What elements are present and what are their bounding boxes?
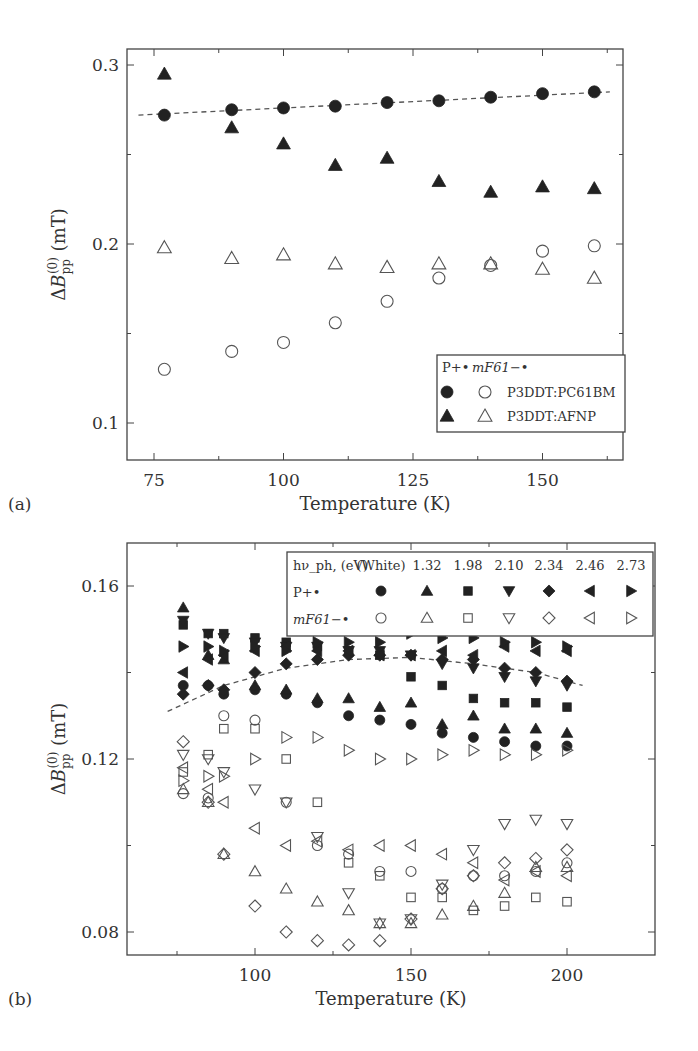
circle-marker: [437, 728, 447, 738]
circle-marker: [500, 737, 510, 747]
triangle-up-marker: [436, 719, 448, 729]
y-tick-label: 0.12: [81, 749, 119, 769]
square-marker: [344, 859, 353, 868]
triangle-up-marker: [249, 866, 261, 876]
triangle-up-marker: [280, 684, 292, 694]
triangle-up-marker: [587, 271, 601, 283]
circle-marker: [158, 363, 170, 375]
triangle-up-marker: [530, 723, 542, 733]
y-tick-label: 0.16: [81, 576, 119, 596]
series-2-34-p-: [177, 649, 573, 700]
triangle-left-marker: [218, 797, 228, 809]
triangle-up-marker: [157, 241, 171, 253]
x-axis-label: Temperature (K): [315, 988, 466, 1009]
circle-marker: [219, 711, 229, 721]
triangle-up-marker: [312, 693, 324, 703]
triangle-right-marker: [407, 753, 417, 765]
x-tick-label: 150: [395, 965, 427, 985]
triangle-down-marker: [218, 634, 230, 644]
square-marker: [532, 699, 541, 708]
square-marker: [563, 703, 572, 712]
series-p3ddt-afnp-p-: [157, 67, 601, 197]
circle-marker: [468, 871, 478, 881]
triangle-right-marker: [313, 732, 323, 744]
legend: P+•mF61−•P3DDT:PC61BMP3DDT:AFNP: [437, 355, 625, 432]
triangle-up-marker: [587, 182, 601, 194]
legend-header-mf: mF61−•: [472, 360, 528, 375]
triangle-left-marker: [177, 667, 187, 679]
legend-row-label-mf: mF61−•: [293, 612, 349, 627]
circle-marker: [158, 109, 170, 121]
triangle-up-marker: [374, 701, 386, 711]
legend-row-label-p: P+•: [293, 585, 320, 600]
circle-marker: [278, 102, 290, 114]
square-marker: [407, 673, 416, 682]
diamond-marker: [343, 939, 355, 951]
series-2-73-mf61-: [179, 732, 573, 787]
triangle-up-marker: [380, 151, 394, 163]
square-marker: [500, 902, 509, 911]
series-1-32-mf61-: [177, 784, 572, 928]
triangle-up-marker: [436, 909, 448, 919]
circle-marker: [433, 95, 445, 107]
triangle-right-marker: [179, 641, 189, 653]
triangle-up-marker: [380, 260, 394, 272]
y-axis-label: ΔBpp(0) (mT): [46, 208, 73, 300]
triangle-up-marker: [225, 251, 239, 263]
square-marker: [282, 755, 291, 764]
triangle-left-marker: [436, 848, 446, 860]
circle-marker: [250, 715, 260, 725]
diamond-marker: [177, 688, 189, 700]
diamond-marker: [467, 870, 479, 882]
triangle-down-marker: [343, 889, 355, 899]
series-p3ddt-afnp-mf61-: [157, 241, 601, 284]
triangle-up-marker: [405, 918, 417, 928]
triangle-up-marker: [249, 680, 261, 690]
x-axis-label: Temperature (K): [299, 493, 450, 514]
circle-marker: [329, 317, 341, 329]
triangle-up-marker: [536, 262, 550, 274]
triangle-left-marker: [405, 840, 415, 852]
x-tick-label: 200: [551, 965, 583, 985]
triangle-right-marker: [469, 745, 479, 757]
triangle-up-marker: [328, 158, 342, 170]
diamond-marker: [374, 935, 386, 947]
triangle-up-marker: [177, 602, 189, 612]
legend-header-p: P+•: [442, 360, 469, 375]
legend-column-label: (White): [357, 558, 406, 573]
square-marker: [313, 798, 322, 807]
y-tick-label: 0.2: [92, 234, 119, 254]
triangle-right-marker: [500, 749, 510, 761]
square-marker: [532, 893, 541, 902]
triangle-right-marker: [282, 732, 292, 744]
triangle-right-marker: [204, 771, 214, 783]
triangle-left-marker: [374, 840, 384, 852]
legend-entry-label: P3DDT:PC61BM: [507, 385, 616, 400]
triangle-right-marker: [344, 745, 354, 757]
square-marker: [464, 587, 473, 596]
fit-line-dashed: [168, 657, 583, 711]
triangle-left-marker: [468, 857, 478, 869]
y-tick-label: 0.08: [81, 922, 119, 942]
x-tick-label: 150: [526, 470, 558, 490]
circle-marker: [226, 104, 238, 116]
triangle-left-marker: [249, 822, 259, 834]
circle-marker: [562, 858, 572, 868]
triangle-right-marker: [251, 753, 261, 765]
circle-marker: [406, 866, 416, 876]
circle-marker: [537, 88, 549, 100]
triangle-up-marker: [432, 174, 446, 186]
triangle-up-marker: [499, 887, 511, 897]
circle-marker: [537, 245, 549, 257]
square-marker: [407, 893, 416, 902]
triangle-up-marker: [218, 848, 230, 858]
x-tick-label: 100: [239, 965, 271, 985]
triangle-left-marker: [280, 840, 290, 852]
triangle-down-marker: [249, 785, 261, 795]
circle-marker: [441, 386, 453, 398]
circle-marker: [485, 259, 497, 271]
square-marker: [500, 699, 509, 708]
triangle-up-marker: [405, 697, 417, 707]
triangle-up-marker: [343, 905, 355, 915]
x-tick-label: 100: [267, 470, 299, 490]
